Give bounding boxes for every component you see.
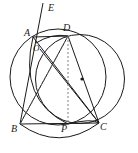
- label-o: O: [33, 44, 40, 53]
- label-e: E: [48, 3, 54, 13]
- circumcircle-abc: [10, 29, 106, 125]
- circle-through-d-c: [36, 35, 125, 124]
- label-d: D: [63, 23, 70, 33]
- label-c: C: [100, 122, 107, 132]
- line-e-a-b: [20, 3, 43, 124]
- label-b: B: [11, 124, 17, 134]
- geometry-figure-canvas: E A D O B P C: [0, 0, 138, 153]
- side-b-c: [20, 123, 99, 124]
- label-p: P: [61, 124, 67, 134]
- chord-a-d: [33, 36, 68, 37]
- center-dot: [80, 77, 83, 80]
- label-a: A: [24, 28, 30, 38]
